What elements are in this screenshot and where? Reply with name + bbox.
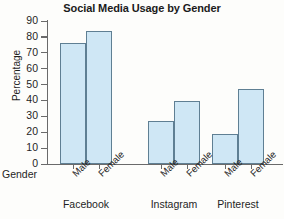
group-label-pinterest: Pinterest — [217, 198, 258, 210]
y-axis-tick-label: 40 — [14, 93, 38, 105]
y-axis-tick — [41, 21, 47, 22]
bar-facebook-female — [86, 31, 112, 164]
y-axis-tick — [41, 52, 47, 53]
y-axis-tick-label: 20 — [14, 125, 38, 137]
y-axis-tick — [41, 84, 47, 85]
y-axis-tick — [41, 164, 47, 165]
bar-pinterest-female — [238, 89, 264, 164]
y-axis-tick — [41, 68, 47, 69]
bar-instagram-female — [174, 101, 200, 164]
y-axis-tick-label: 10 — [14, 141, 38, 153]
x-axis-title: Gender — [2, 168, 37, 180]
group-label-facebook: Facebook — [63, 198, 109, 210]
y-axis-tick-label: 90 — [14, 14, 38, 26]
y-axis-tick — [41, 36, 47, 37]
bar-facebook-male — [60, 43, 86, 164]
chart-title: Social Media Usage by Gender — [0, 2, 284, 14]
y-axis-tick-label: 0 — [14, 157, 38, 169]
y-axis-line — [47, 20, 48, 165]
y-axis-tick-label: 50 — [14, 78, 38, 90]
bar-chart: Social Media Usage by Gender Percentage … — [0, 0, 284, 219]
y-axis-tick-label: 60 — [14, 62, 38, 74]
y-axis-tick-label: 30 — [14, 109, 38, 121]
y-axis-tick-label: 80 — [14, 30, 38, 42]
y-axis-tick — [41, 100, 47, 101]
y-axis-tick — [41, 132, 47, 133]
y-axis-tick — [41, 148, 47, 149]
group-label-instagram: Instagram — [151, 198, 198, 210]
y-axis-tick — [41, 116, 47, 117]
y-axis-tick-label: 70 — [14, 46, 38, 58]
